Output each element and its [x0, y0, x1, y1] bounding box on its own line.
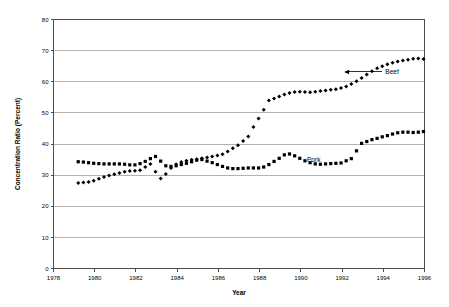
- data-point-square: [350, 157, 353, 160]
- data-point-square: [200, 158, 203, 161]
- data-point-diamond: [133, 169, 137, 173]
- data-point-square: [293, 154, 296, 157]
- data-point-square: [334, 162, 337, 165]
- y-tick-label: 0: [45, 266, 49, 272]
- x-tick-label: 1996: [418, 275, 432, 281]
- data-point-square: [272, 160, 275, 163]
- gridlines: [54, 20, 425, 238]
- data-point-diamond: [246, 135, 250, 139]
- data-point-square: [412, 131, 415, 134]
- data-point-diamond: [251, 125, 255, 129]
- data-series: [76, 56, 425, 185]
- y-tick-label: 20: [42, 203, 49, 209]
- data-point-diamond: [92, 179, 96, 183]
- data-point-square: [381, 135, 384, 138]
- chart-container: 01020304050607080 1978198019821984198619…: [0, 0, 449, 307]
- data-point-diamond: [391, 61, 395, 65]
- data-point-square: [298, 157, 301, 160]
- x-tick-label: 1982: [129, 275, 143, 281]
- series-pork: [77, 130, 425, 170]
- data-point-square: [92, 162, 95, 165]
- data-point-square: [406, 131, 409, 134]
- data-point-diamond: [210, 154, 214, 158]
- data-point-diamond: [226, 149, 230, 153]
- data-point-diamond: [406, 58, 410, 62]
- data-point-diamond: [308, 90, 312, 94]
- data-point-square: [386, 134, 389, 137]
- data-point-diamond: [262, 108, 266, 112]
- data-point-square: [185, 162, 188, 165]
- data-point-diamond: [81, 181, 85, 185]
- data-point-diamond: [143, 165, 147, 169]
- x-tick-label: 1986: [212, 275, 226, 281]
- data-point-square: [375, 137, 378, 140]
- data-point-diamond: [313, 90, 317, 94]
- x-tick-label: 1992: [335, 275, 349, 281]
- data-point-diamond: [76, 181, 80, 185]
- data-point-diamond: [97, 177, 101, 181]
- data-point-square: [108, 162, 111, 165]
- data-point-square: [236, 167, 239, 170]
- data-point-square: [355, 149, 358, 152]
- data-point-diamond: [329, 88, 333, 92]
- data-point-square: [154, 155, 157, 158]
- data-point-square: [401, 131, 404, 134]
- data-point-square: [118, 162, 121, 165]
- data-point-square: [278, 157, 281, 160]
- data-point-square: [97, 162, 100, 165]
- data-point-square: [422, 130, 425, 133]
- series-label-beef: Beef: [385, 68, 399, 75]
- data-point-square: [138, 162, 141, 165]
- data-point-diamond: [272, 97, 276, 101]
- data-point-square: [417, 131, 420, 134]
- data-point-square: [123, 163, 126, 166]
- data-point-square: [391, 132, 394, 135]
- data-point-square: [257, 166, 260, 169]
- data-point-diamond: [123, 170, 127, 174]
- data-point-diamond: [411, 57, 415, 61]
- data-point-diamond: [396, 60, 400, 64]
- data-point-diamond: [354, 79, 358, 83]
- data-point-diamond: [318, 89, 322, 93]
- data-point-square: [128, 163, 131, 166]
- data-point-diamond: [401, 59, 405, 63]
- data-point-diamond: [385, 62, 389, 66]
- data-point-square: [370, 138, 373, 141]
- data-point-diamond: [293, 90, 297, 94]
- annotation-arrowhead-beef: [344, 70, 349, 74]
- data-point-diamond: [360, 76, 364, 80]
- data-point-square: [283, 153, 286, 156]
- data-point-square: [365, 140, 368, 143]
- data-point-diamond: [339, 86, 343, 90]
- data-point-square: [205, 160, 208, 163]
- data-point-diamond: [205, 155, 209, 159]
- concentration-ratio-chart: 01020304050607080 1978198019821984198619…: [0, 0, 449, 307]
- x-tick-label: 1988: [253, 275, 267, 281]
- data-point-square: [267, 163, 270, 166]
- x-tick-label: 1984: [170, 275, 184, 281]
- data-point-square: [113, 162, 116, 165]
- data-point-square: [396, 131, 399, 134]
- x-axis-title: Year: [232, 289, 246, 296]
- x-axis-tick-labels: 1978198019821984198619881990199219941996: [47, 275, 432, 281]
- x-tick-label: 1978: [47, 275, 61, 281]
- data-point-diamond: [380, 64, 384, 68]
- data-point-diamond: [128, 169, 132, 173]
- data-point-square: [345, 159, 348, 162]
- data-point-square: [175, 164, 178, 167]
- data-point-square: [77, 160, 80, 163]
- data-point-square: [226, 166, 229, 169]
- data-point-square: [195, 159, 198, 162]
- data-point-square: [82, 160, 85, 163]
- y-tick-label: 10: [42, 235, 49, 241]
- y-axis-title: Concentration Ratio (Percent): [14, 98, 22, 190]
- data-point-diamond: [267, 98, 271, 102]
- y-tick-label: 60: [42, 79, 49, 85]
- data-point-square: [102, 162, 105, 165]
- data-point-diamond: [241, 139, 245, 143]
- data-point-diamond: [287, 91, 291, 95]
- data-point-square: [180, 163, 183, 166]
- data-point-square: [211, 161, 214, 164]
- data-point-diamond: [277, 94, 281, 98]
- y-tick-label: 80: [42, 17, 49, 23]
